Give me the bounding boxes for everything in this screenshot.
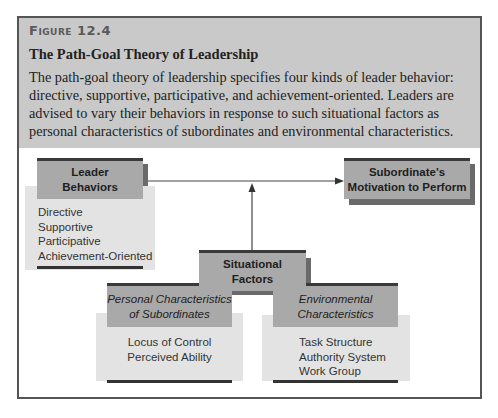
- list-item: Work Group: [299, 364, 386, 379]
- arrowhead-right-icon: [335, 178, 344, 185]
- personal-title-2: of Subordinates: [107, 307, 232, 322]
- situational-bottom-tab: [232, 291, 273, 295]
- situational-title-1: Situational: [223, 257, 282, 272]
- environmental-list: Task Structure Authority System Work Gro…: [299, 335, 386, 379]
- environmental-title-1: Environmental: [297, 292, 373, 307]
- arrowhead-up-icon: [249, 183, 256, 192]
- personal-bottom-rule: [107, 380, 232, 383]
- list-item: Task Structure: [299, 335, 386, 350]
- situational-factors-box: Situational Factors: [199, 250, 306, 291]
- list-item: Locus of Control: [107, 335, 232, 350]
- personal-title-1: Personal Characteristics: [107, 292, 232, 307]
- situational-title-2: Factors: [223, 272, 282, 287]
- situational-shadow-tab: [306, 258, 311, 285]
- environmental-title-2: Characteristics: [297, 307, 373, 322]
- list-item: Authority System: [299, 350, 386, 365]
- path-goal-diagram: Leader Behaviors Directive Supportive Pa…: [0, 0, 498, 418]
- personal-list: Locus of Control Perceived Ability: [107, 335, 232, 364]
- list-item: Perceived Ability: [107, 350, 232, 365]
- environmental-bottom-rule: [273, 380, 398, 383]
- connector-arrows: [0, 0, 498, 418]
